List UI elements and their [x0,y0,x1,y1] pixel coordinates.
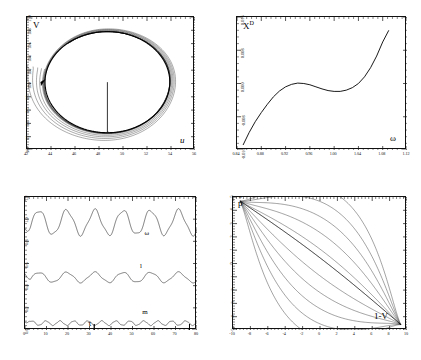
panel-bottom-right-xtick: -8 [248,331,251,336]
panel-bottom-right-xtick: 2 [335,331,337,336]
panel-bottom-right-ytick: -5 [230,329,235,333]
panel-bottom-right-xtick: -2 [300,331,303,336]
panel-bottom-right-xtick: 6 [370,331,372,336]
panel-bottom-right-xtick: -6 [265,331,268,336]
panel4-xlabel: 1-V [374,311,388,321]
panel-bottom-right-ytick: -4 [230,315,235,319]
panel-bottom-right-ytick: -2 [230,289,235,293]
panel1-xlabel: u [180,135,185,145]
panel-bottom-right-ytick: 4 [229,209,234,211]
panel2-xlabel: ω [390,133,396,143]
panel-bottom-right-xtick: 10 [404,331,408,336]
panel-bottom-right-xtick: 4 [353,331,355,336]
panel-bottom-right-ytick: -1 [230,275,235,279]
panel-bottom-right: -10-8-6-4-20246810-5-4-3-2-1012345 [0,0,421,360]
panel-bottom-right-xtick: -4 [283,331,286,336]
panel2-ylabel: XD [243,20,254,31]
panel-bottom-right-axes-frame [232,196,406,329]
panel-bottom-right-ytick: -3 [230,302,235,306]
panel-bottom-right-xtick: 8 [388,331,390,336]
panel1-ylabel: V [33,20,40,30]
panel4-ylabel: ˆp [238,198,243,208]
panel-bottom-right-ytick: 0 [229,262,234,264]
panel-bottom-right-ytick: 3 [229,222,234,224]
panel-bottom-right-ytick: 1 [229,249,234,251]
panel-bottom-right-ytick: 2 [229,235,234,237]
figure-root: 4244464850525456909294969810010210410610… [0,0,421,360]
panel-bottom-right-xtick: 0 [318,331,320,336]
panel3-xlabel: τ [88,318,92,328]
panel-bottom-right-ytick: 5 [229,196,234,198]
